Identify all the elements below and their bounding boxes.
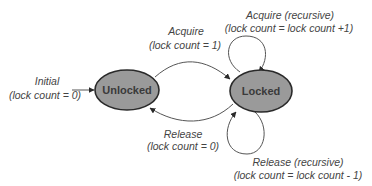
release-recursive-label: Release (recursive) [252,156,343,168]
release-recursive-loop [227,112,264,154]
release-count-label: (lock count = 0) [147,140,219,152]
acquire-label: Acquire [167,25,204,37]
acquire-recursive-transition: Acquire (recursive) (lock count = lock c… [225,9,353,72]
acquire-recursive-count-label: (lock count = lock count +1) [225,22,353,34]
initial-transition: Initial (lock count = 0) [9,75,94,101]
release-arrow [150,104,233,121]
state-locked: Locked [230,70,292,112]
initial-count-label: (lock count = 0) [9,89,81,101]
release-label: Release [164,128,203,140]
acquire-recursive-loop [229,36,266,72]
state-diagram: Initial (lock count = 0) Acquire (lock c… [0,0,372,186]
acquire-transition: Acquire (lock count = 1) [149,25,230,79]
unlocked-label: Unlocked [102,84,152,96]
locked-label: Locked [242,85,281,97]
acquire-arrow [155,62,230,79]
acquire-recursive-label: Acquire (recursive) [245,9,334,21]
initial-label: Initial [35,75,60,87]
diagram-canvas: Initial (lock count = 0) Acquire (lock c… [0,0,372,186]
release-recursive-transition: Release (recursive) (lock count = lock c… [227,112,362,181]
state-unlocked: Unlocked [95,70,159,110]
release-recursive-count-label: (lock count = lock count - 1) [234,169,363,181]
release-transition: Release (lock count = 0) [147,104,233,152]
acquire-count-label: (lock count = 1) [149,39,221,51]
